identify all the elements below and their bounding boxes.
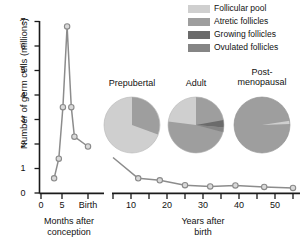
x-tick-right-20: 20: [160, 201, 174, 210]
pie-title-adult: Adult: [166, 78, 226, 88]
curve-postnatal: [113, 158, 293, 188]
pie-prepubertal: [104, 97, 160, 153]
x-axis-caption-right-line2: birth: [194, 227, 212, 237]
pie-adult: [168, 97, 224, 153]
x-tick-right-30: 30: [196, 201, 210, 210]
pie-title-post-menopausal: Post- menopausal: [222, 67, 302, 87]
x-tick-right-10: 10: [124, 201, 138, 210]
pie-title-post-menopausal-line1: Post-: [251, 67, 272, 77]
x-tick-left-5: 5: [55, 201, 69, 210]
x-tick-right-40: 40: [232, 201, 246, 210]
pie-post-menopausal: [234, 97, 290, 153]
x-axis-caption-left: Months after conception: [24, 216, 114, 237]
y-tick-1: 1: [16, 164, 30, 173]
x-axis-caption-right: Years after birth: [158, 216, 248, 237]
x-tick-left-0: 0: [34, 201, 48, 210]
pie-title-prepubertal: Prepubertal: [92, 78, 172, 88]
x-axis-caption-left-line2: conception: [47, 227, 91, 237]
x-axis-caption-right-line1: Years after: [181, 216, 224, 226]
x-axis-caption-left-line1: Months after: [44, 216, 94, 226]
x-tick-right-50: 50: [268, 201, 282, 210]
markers-postnatal: [136, 176, 296, 191]
germ-cell-figure: Follicular pool Atretic follicles Growin…: [0, 0, 305, 251]
y-tick-0: 0: [16, 189, 30, 198]
pie-title-post-menopausal-line2: menopausal: [237, 77, 286, 87]
y-axis-title: Number of germ cells (millions): [18, 9, 29, 159]
plot-area: [0, 0, 305, 251]
x-tick-left-birth: Birth: [73, 201, 103, 210]
